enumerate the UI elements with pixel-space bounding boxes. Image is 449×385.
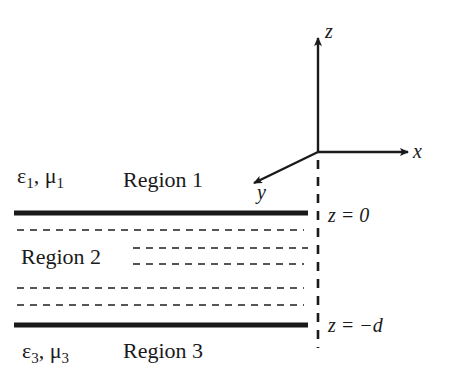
coordinate-axes: z x y [254, 20, 422, 204]
region3-material: ε3, μ3 [22, 338, 69, 366]
x-axis-label: x [412, 140, 422, 162]
boundary-top-label: z = 0 [327, 204, 369, 226]
z-axis-label: z [324, 20, 333, 42]
region2-label: Region 2 [21, 244, 101, 269]
region1-material: ε1, μ1 [17, 163, 64, 191]
boundary-bottom-label: z = −d [327, 314, 384, 336]
y-axis-label: y [255, 181, 266, 204]
layered-media-diagram: z x y z = 0 z = −d ε1, μ1 Region 1 Regio… [0, 0, 449, 385]
y-axis-arrow [254, 152, 318, 183]
region1-label: Region 1 [123, 167, 203, 192]
region3-label: Region 3 [123, 338, 203, 363]
